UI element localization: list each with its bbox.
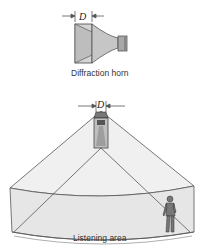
horn-top-view xyxy=(94,112,108,118)
horn-driver-back xyxy=(124,37,127,50)
listening-area-label: Listening area xyxy=(73,233,127,243)
horn-caption: Diffraction horn xyxy=(71,68,129,78)
horn-front-driver xyxy=(97,120,105,125)
dimension-d-label-top: D xyxy=(78,11,87,22)
horn-illustration: D Diffraction horn xyxy=(62,11,129,78)
dimension-d-label-bottom: D xyxy=(96,99,105,110)
diffraction-horn-diagram: D Diffraction horn D xyxy=(0,0,209,245)
listening-area-illustration: D Listening area xyxy=(10,99,194,244)
horn-flare xyxy=(92,24,118,63)
